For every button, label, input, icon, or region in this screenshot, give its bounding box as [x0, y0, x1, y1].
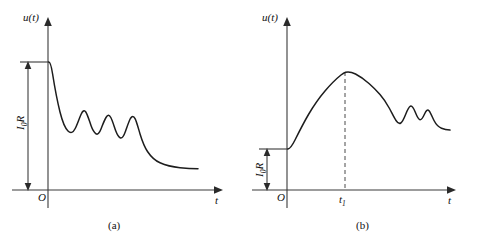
panel-b-t1-tick-label-sub: 1: [342, 199, 346, 208]
panel-b-graphics: [0, 0, 477, 242]
panel-b-x-axis-arrow-icon: [447, 186, 456, 194]
panel-b-dimension-label-main: I: [253, 173, 265, 177]
panel-b-caption: (b): [356, 220, 369, 231]
panel-b-curve: [288, 72, 450, 149]
panel-b-origin-label: O: [277, 192, 285, 203]
panel-b-t1-tick-label: t1: [339, 194, 346, 208]
panel-b-dimension-label-sub: 0: [259, 170, 268, 174]
panel-b-y-axis-label: u(t): [262, 12, 278, 23]
panel-b-y-axis-arrow-icon: [283, 17, 291, 26]
figure-root: u(t) t O I0R (a) u(t) t O t1 I0R (b): [0, 0, 477, 242]
panel-b-dimension-label-tail: R: [253, 163, 265, 170]
panel-b-dimension-label: I0R: [254, 150, 268, 190]
panel-b-x-axis-label: t: [448, 195, 451, 206]
